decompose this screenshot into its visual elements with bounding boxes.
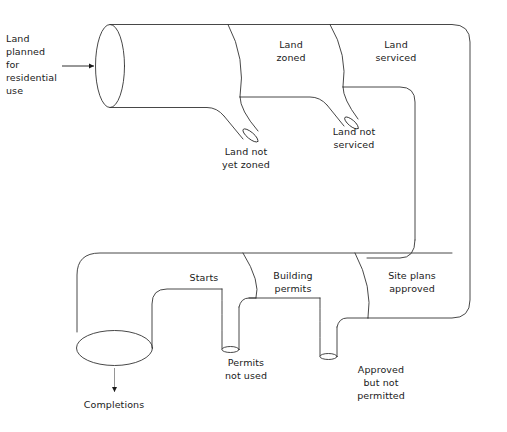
leak-land-not-serviced-left-edge <box>327 105 344 126</box>
leak-land-not-yet-zoned-left-edge <box>224 116 243 139</box>
divider-zoned-left <box>228 25 242 98</box>
divider-siteplans-permits <box>355 253 369 318</box>
label-building-permits: Building permits <box>273 269 312 295</box>
segment-site-plans-bottom-edge <box>337 318 368 327</box>
diagram-canvas: Land planned for residential use Land zo… <box>0 0 507 432</box>
label-starts: Starts <box>190 271 219 284</box>
segment-building-permits-bottom-edge <box>239 298 320 307</box>
leak-land-not-yet-zoned-right-edge <box>240 97 258 131</box>
label-land-planned-for-residential-use: Land planned for residential use <box>6 32 57 97</box>
label-completions: Completions <box>84 398 144 411</box>
segment-land-zoned-bottom-edge <box>240 97 327 105</box>
inlet-mouth-ellipse <box>96 25 125 108</box>
label-approved-but-not-permitted: Approved but not permitted <box>357 363 405 402</box>
divider-permits-starts <box>243 253 257 298</box>
divider-zoned-serviced <box>330 25 344 88</box>
label-land-not-serviced: Land not serviced <box>333 125 376 151</box>
segment-starts-bottom-edge <box>152 289 222 348</box>
label-site-plans-approved: Site plans approved <box>388 269 436 295</box>
leak-approved-not-permitted-mouth <box>320 354 337 360</box>
outlet-mouth-ellipse <box>77 331 153 366</box>
segment-land-planned-bottom-edge <box>110 108 224 117</box>
label-land-serviced: Land serviced <box>376 38 417 64</box>
label-land-zoned: Land zoned <box>276 38 305 64</box>
right-run-inner-edge <box>367 240 415 258</box>
label-land-not-yet-zoned: Land not yet zoned <box>222 145 270 171</box>
leak-land-not-serviced-right-edge <box>343 87 358 119</box>
label-permits-not-used: Permits not used <box>225 356 267 382</box>
leak-permits-not-used-mouth <box>222 347 239 353</box>
segment-land-serviced-bottom-edge <box>343 87 415 240</box>
